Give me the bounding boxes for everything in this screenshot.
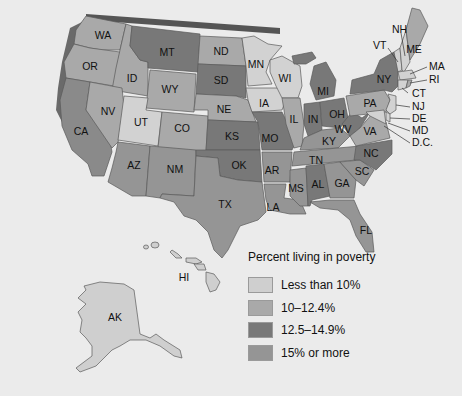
label-mt: MT	[159, 46, 175, 58]
label-ms: MS	[288, 182, 304, 194]
legend-swatch	[248, 345, 273, 361]
label-dc: D.C.	[412, 136, 433, 148]
label-ga: GA	[334, 177, 349, 189]
label-ny: NY	[377, 73, 392, 85]
label-de: DE	[412, 112, 427, 124]
label-pa: PA	[363, 97, 376, 109]
label-vt: VT	[373, 39, 387, 51]
legend: Percent living in poverty Less than 10% …	[248, 250, 458, 364]
label-mi: MI	[317, 85, 329, 97]
label-ok: OK	[231, 159, 246, 171]
legend-item-10-12: 10–12.4%	[248, 297, 458, 319]
label-ar: AR	[265, 164, 280, 176]
label-il: IL	[290, 113, 299, 125]
legend-item-12-15: 12.5–14.9%	[248, 319, 458, 341]
legend-label: Less than 10%	[281, 278, 360, 292]
legend-swatch	[248, 300, 273, 316]
label-nh: NH	[392, 23, 407, 35]
label-al: AL	[312, 178, 325, 190]
label-hi: HI	[179, 271, 190, 283]
label-nd: ND	[213, 45, 229, 57]
label-in: IN	[308, 113, 319, 125]
legend-label: 12.5–14.9%	[281, 323, 345, 337]
label-md: MD	[412, 124, 429, 136]
label-or: OR	[82, 60, 98, 72]
label-az: AZ	[127, 159, 141, 171]
label-ky: KY	[322, 135, 336, 147]
legend-title: Percent living in poverty	[248, 250, 458, 264]
legend-label: 15% or more	[281, 346, 350, 360]
label-wy: WY	[162, 83, 179, 95]
label-ri: RI	[429, 73, 440, 85]
label-wv: WV	[335, 123, 352, 135]
label-ca: CA	[74, 125, 89, 137]
label-nv: NV	[101, 105, 116, 117]
state-de[interactable]	[386, 112, 390, 122]
label-tn: TN	[309, 154, 323, 166]
legend-label: 10–12.4%	[281, 301, 335, 315]
label-sc: SC	[355, 165, 370, 177]
label-sd: SD	[214, 74, 229, 86]
legend-swatch	[248, 322, 273, 338]
label-co: CO	[174, 122, 190, 134]
state-hi[interactable]	[144, 242, 221, 292]
label-ma: MA	[429, 60, 445, 72]
label-wi: WI	[279, 72, 292, 84]
label-la: LA	[267, 201, 280, 213]
label-nc: NC	[363, 147, 379, 159]
label-fl: FL	[360, 224, 372, 236]
label-va: VA	[363, 125, 376, 137]
legend-item-less-than-10: Less than 10%	[248, 274, 458, 296]
state-ak[interactable]	[76, 282, 182, 372]
label-ut: UT	[134, 116, 149, 128]
leader-ri	[410, 80, 427, 83]
label-ne: NE	[217, 103, 232, 115]
label-ia: IA	[259, 97, 269, 109]
leader-nj	[396, 105, 410, 107]
state-ma[interactable]	[398, 70, 416, 80]
label-wa: WA	[95, 29, 112, 41]
leader-de	[390, 118, 410, 119]
legend-swatch	[248, 277, 273, 293]
label-mn: MN	[248, 58, 264, 70]
label-ks: KS	[225, 130, 239, 142]
label-mo: MO	[262, 132, 279, 144]
label-tx: TX	[218, 198, 231, 210]
legend-item-15-plus: 15% or more	[248, 342, 458, 364]
label-ak: AK	[108, 311, 122, 323]
label-nm: NM	[167, 163, 183, 175]
leader-md	[388, 123, 410, 131]
label-id: ID	[127, 72, 138, 84]
label-ct: CT	[412, 87, 427, 99]
label-nj: NJ	[412, 100, 425, 112]
label-oh: OH	[329, 108, 345, 120]
label-me: ME	[406, 43, 422, 55]
leader-ct	[402, 88, 408, 93]
